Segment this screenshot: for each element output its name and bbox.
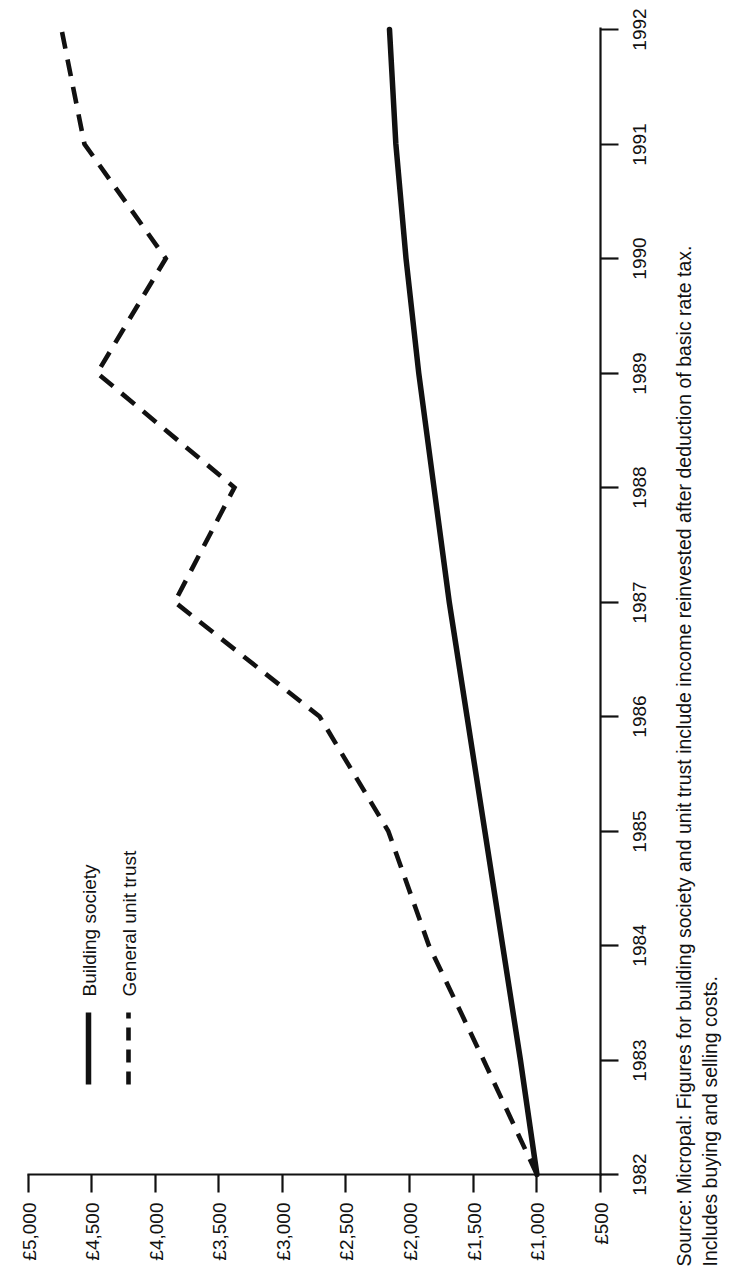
chart-page: 1982 1983 1984 1985 1986 1987 1988 1989 … (0, 0, 729, 1274)
x-tick-label: 1987 (628, 581, 649, 623)
source-note: Source: Micropal: Figures for building s… (672, 245, 720, 1266)
x-axis-ticks (600, 29, 618, 1174)
x-tick-label: 1989 (628, 352, 649, 394)
y-tick-label: £4,000 (145, 1202, 166, 1260)
line-chart: 1982 1983 1984 1985 1986 1987 1988 1989 … (0, 0, 729, 1274)
y-tick-label: £1,000 (526, 1202, 547, 1260)
y-tick-label: £3,000 (272, 1202, 293, 1260)
series-line-general-unit-trust (61, 29, 536, 1174)
x-tick-label: 1990 (628, 237, 649, 279)
y-tick-label: £5,000 (18, 1202, 39, 1260)
source-note-line-1: Source: Micropal: Figures for building s… (672, 245, 694, 1266)
x-tick-label: 1991 (628, 123, 649, 165)
y-axis-ticks (28, 1174, 600, 1192)
y-tick-label: £2,000 (399, 1202, 420, 1260)
x-tick-label: 1985 (628, 810, 649, 852)
y-axis-tick-labels: £5,000 £4,500 £4,000 £3,500 £3,000 £2,50… (18, 1202, 611, 1260)
x-tick-label: 1984 (628, 923, 649, 966)
x-tick-label: 1986 (628, 695, 649, 737)
y-axis: £5,000 £4,500 £4,000 £3,500 £3,000 £2,50… (18, 1174, 611, 1260)
y-tick-label: £500 (590, 1202, 611, 1244)
source-note-line-2: Includes buying and selling costs. (698, 975, 720, 1266)
x-tick-label: 1988 (628, 466, 649, 508)
chart-legend: Building society General unit trust (78, 850, 139, 1084)
y-tick-label: £2,500 (335, 1202, 356, 1260)
legend-label-building-society: Building society (78, 863, 99, 996)
x-tick-label: 1982 (628, 1153, 649, 1195)
y-tick-label: £4,500 (81, 1202, 102, 1260)
x-axis-tick-labels: 1982 1983 1984 1985 1986 1987 1988 1989 … (628, 8, 649, 1195)
x-axis: 1982 1983 1984 1985 1986 1987 1988 1989 … (600, 8, 649, 1195)
y-tick-label: £3,500 (208, 1202, 229, 1260)
x-tick-label: 1983 (628, 1039, 649, 1081)
chart-figure: 1982 1983 1984 1985 1986 1987 1988 1989 … (0, 0, 729, 1274)
series-line-building-society (389, 29, 536, 1174)
legend-label-general-unit-trust: General unit trust (118, 850, 139, 996)
x-tick-label: 1992 (628, 8, 649, 50)
y-tick-label: £1,500 (463, 1202, 484, 1260)
